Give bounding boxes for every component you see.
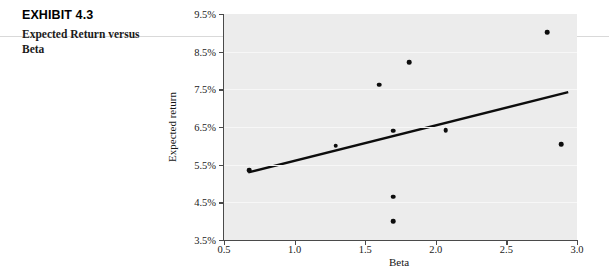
exhibit-page: EXHIBIT 4.3 Expected Return versus Beta …	[0, 0, 609, 274]
gridline-horizontal	[224, 89, 577, 90]
y-axis-tick-label: 7.5%	[194, 84, 216, 95]
data-point	[333, 144, 338, 149]
data-point	[247, 168, 252, 173]
y-axis-tick-label: 8.5%	[194, 46, 216, 57]
y-axis-tick-label: 6.5%	[194, 122, 216, 133]
gridline-horizontal	[224, 202, 577, 203]
x-axis-tick-label: 1.5	[359, 244, 372, 255]
data-point	[391, 194, 396, 199]
y-axis-tick-label: 9.5%	[194, 9, 216, 20]
y-axis-tick	[219, 165, 224, 166]
x-axis-tick-label: 2.5	[500, 244, 513, 255]
gridline-horizontal	[224, 52, 577, 53]
y-axis-tick	[219, 14, 224, 15]
data-point	[407, 60, 412, 65]
y-axis-tick-label: 4.5%	[194, 197, 216, 208]
data-point	[443, 128, 448, 133]
scatter-chart: 3.5%4.5%5.5%6.5%7.5%8.5%9.5%0.51.01.52.0…	[0, 0, 609, 274]
data-point	[391, 219, 396, 224]
y-axis-tick	[219, 52, 224, 53]
x-axis-tick-label: 3.0	[570, 244, 583, 255]
x-axis-tick-label: 1.0	[288, 244, 301, 255]
y-axis-tick-label: 3.5%	[194, 235, 216, 246]
y-axis-tick	[219, 127, 224, 128]
gridline-horizontal	[224, 165, 577, 166]
x-axis-tick-label: 2.0	[429, 244, 442, 255]
data-point	[545, 30, 550, 35]
y-axis-tick	[219, 202, 224, 203]
y-axis-tick	[219, 89, 224, 90]
x-axis-title: Beta	[389, 256, 409, 268]
y-axis-tick-label: 5.5%	[194, 159, 216, 170]
plot-area: 3.5%4.5%5.5%6.5%7.5%8.5%9.5%0.51.01.52.0…	[223, 14, 577, 241]
data-point	[391, 128, 396, 133]
data-point	[377, 83, 382, 88]
data-point	[559, 142, 564, 147]
y-axis-title: Expected return	[166, 92, 178, 162]
gridline-horizontal	[224, 127, 577, 128]
x-axis-tick-label: 0.5	[217, 244, 230, 255]
